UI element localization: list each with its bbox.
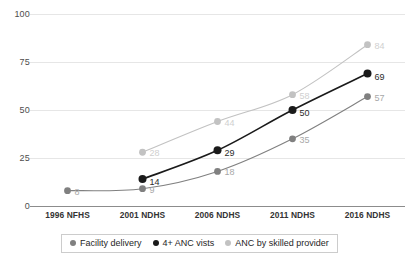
data-point-value-label: 50 xyxy=(300,109,310,118)
x-axis-tick-label: 2006 NDHS xyxy=(195,210,241,220)
data-point-marker xyxy=(214,146,222,154)
data-point-marker xyxy=(289,106,297,114)
y-axis-tick-label: 50 xyxy=(4,106,30,115)
legend-marker-icon xyxy=(70,240,76,246)
data-point-value-label: 18 xyxy=(225,168,235,177)
legend-item[interactable]: Facility delivery xyxy=(70,238,142,248)
data-point-marker xyxy=(364,41,371,48)
x-axis-line xyxy=(30,206,405,207)
data-point-marker xyxy=(139,175,147,183)
data-point-marker xyxy=(214,168,221,175)
series-line xyxy=(68,97,368,191)
legend-label: ANC by skilled provider xyxy=(235,238,329,248)
data-point-value-label: 8 xyxy=(75,187,80,196)
data-point-value-label: 28 xyxy=(150,149,160,158)
legend-item[interactable]: ANC by skilled provider xyxy=(225,238,329,248)
x-axis-tick-label: 1996 NFHS xyxy=(45,210,90,220)
x-axis-tick-label: 2011 NDHS xyxy=(270,210,315,220)
data-point-value-label: 14 xyxy=(150,178,160,187)
y-axis-tick-label: 75 xyxy=(4,58,30,67)
plot-area: 284458848918355714295069 xyxy=(30,14,405,206)
legend-marker-icon xyxy=(225,240,231,246)
data-point-marker xyxy=(139,185,146,192)
legend-label: Facility delivery xyxy=(80,238,142,248)
x-axis-tick-label: 2001 NDHS xyxy=(120,210,166,220)
data-point-marker xyxy=(214,118,221,125)
legend-item[interactable]: 4+ ANC vists xyxy=(153,238,215,248)
line-chart: 0255075100 1996 NFHS2001 NDHS2006 NDHS20… xyxy=(0,0,413,260)
data-point-marker xyxy=(364,70,372,78)
series-layer xyxy=(30,14,405,206)
chart-legend: Facility delivery4+ ANC vistsANC by skil… xyxy=(61,234,338,253)
data-point-value-label: 44 xyxy=(225,118,235,127)
series-line xyxy=(143,45,368,153)
legend-marker-icon xyxy=(153,240,159,246)
data-point-marker xyxy=(289,91,296,98)
data-point-value-label: 29 xyxy=(225,149,235,158)
data-point-marker xyxy=(64,187,71,194)
y-axis-tick-label: 0 xyxy=(4,202,30,211)
data-point-value-label: 57 xyxy=(375,93,385,102)
x-axis-tick-label: 2016 NDHS xyxy=(345,210,391,220)
y-axis-tick-label: 25 xyxy=(4,154,30,163)
data-point-value-label: 69 xyxy=(375,72,385,81)
y-axis-tick-label: 100 xyxy=(4,10,30,19)
data-point-marker xyxy=(364,93,371,100)
series-line xyxy=(143,74,368,180)
legend-label: 4+ ANC vists xyxy=(163,238,215,248)
data-point-value-label: 84 xyxy=(375,41,385,50)
data-point-marker xyxy=(139,149,146,156)
data-point-value-label: 58 xyxy=(300,91,310,100)
data-point-marker xyxy=(289,135,296,142)
data-point-value-label: 35 xyxy=(300,135,310,144)
